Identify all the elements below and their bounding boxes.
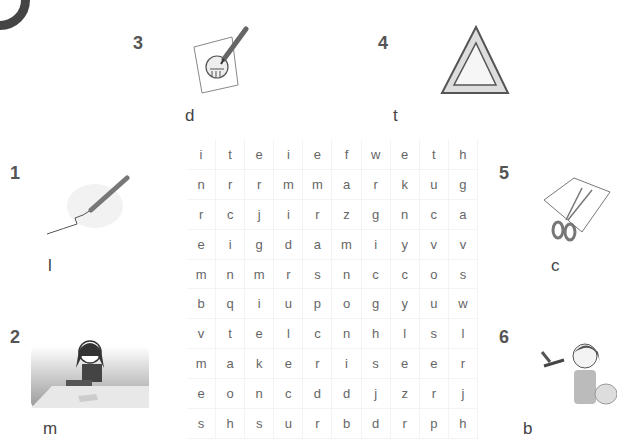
grid-cell[interactable]: l [449,319,478,349]
grid-cell[interactable]: e [187,230,216,260]
grid-cell[interactable]: b [187,289,216,319]
grid-cell[interactable]: r [303,409,332,439]
grid-cell[interactable]: q [216,289,245,319]
grid-cell[interactable]: d [362,409,391,439]
grid-cell[interactable]: u [420,289,449,319]
grid-cell[interactable]: a [449,200,478,230]
grid-cell[interactable]: g [362,200,391,230]
grid-cell[interactable]: g [245,230,274,260]
grid-cell[interactable]: r [303,349,332,379]
grid-cell[interactable]: e [391,140,420,170]
grid-cell[interactable]: m [303,170,332,200]
grid-cell[interactable]: i [187,140,216,170]
grid-cell[interactable]: e [245,319,274,349]
grid-cell[interactable]: e [245,140,274,170]
grid-cell[interactable]: t [420,140,449,170]
grid-cell[interactable]: e [391,349,420,379]
grid-cell[interactable]: v [420,230,449,260]
grid-cell[interactable]: e [274,349,303,379]
grid-cell[interactable]: d [303,379,332,409]
grid-cell[interactable]: h [216,409,245,439]
grid-cell[interactable]: w [362,140,391,170]
grid-cell[interactable]: m [245,260,274,290]
grid-cell[interactable]: h [449,409,478,439]
grid-cell[interactable]: m [332,230,361,260]
grid-cell[interactable]: u [274,409,303,439]
grid-cell[interactable]: r [245,170,274,200]
grid-cell[interactable]: j [449,379,478,409]
grid-cell[interactable]: s [245,409,274,439]
grid-cell[interactable]: c [303,319,332,349]
grid-cell[interactable]: c [391,260,420,290]
grid-cell[interactable]: y [391,289,420,319]
grid-cell[interactable]: o [332,289,361,319]
grid-cell[interactable]: j [362,379,391,409]
grid-cell[interactable]: n [391,200,420,230]
grid-cell[interactable]: v [187,319,216,349]
grid-cell[interactable]: g [449,170,478,200]
grid-cell[interactable]: s [303,260,332,290]
grid-cell[interactable]: s [362,349,391,379]
grid-cell[interactable]: e [187,379,216,409]
grid-cell[interactable]: e [303,140,332,170]
grid-cell[interactable]: f [332,140,361,170]
grid-cell[interactable]: m [187,349,216,379]
grid-cell[interactable]: r [449,349,478,379]
grid-cell[interactable]: k [245,349,274,379]
grid-cell[interactable]: a [332,170,361,200]
grid-cell[interactable]: u [274,289,303,319]
grid-cell[interactable]: o [420,260,449,290]
grid-cell[interactable]: n [216,260,245,290]
grid-cell[interactable]: r [187,200,216,230]
grid-cell[interactable]: i [332,349,361,379]
grid-cell[interactable]: h [449,140,478,170]
grid-cell[interactable]: s [420,319,449,349]
grid-cell[interactable]: i [274,140,303,170]
grid-cell[interactable]: o [216,379,245,409]
grid-cell[interactable]: t [216,140,245,170]
grid-cell[interactable]: n [332,319,361,349]
grid-cell[interactable]: b [332,409,361,439]
grid-cell[interactable]: r [303,200,332,230]
grid-cell[interactable]: s [449,260,478,290]
grid-cell[interactable]: i [245,289,274,319]
grid-cell[interactable]: i [216,230,245,260]
grid-cell[interactable]: h [362,319,391,349]
grid-cell[interactable]: e [420,349,449,379]
grid-cell[interactable]: l [274,319,303,349]
grid-cell[interactable]: r [216,170,245,200]
grid-cell[interactable]: w [449,289,478,319]
grid-cell[interactable]: y [391,230,420,260]
grid-cell[interactable]: k [391,170,420,200]
grid-cell[interactable]: r [362,170,391,200]
grid-cell[interactable]: c [274,379,303,409]
grid-cell[interactable]: n [332,260,361,290]
grid-cell[interactable]: c [420,200,449,230]
grid-cell[interactable]: a [216,349,245,379]
grid-cell[interactable]: m [187,260,216,290]
grid-cell[interactable]: g [362,289,391,319]
grid-cell[interactable]: d [332,379,361,409]
grid-cell[interactable]: j [245,200,274,230]
grid-cell[interactable]: m [274,170,303,200]
grid-cell[interactable]: c [216,200,245,230]
grid-cell[interactable]: z [332,200,361,230]
grid-cell[interactable]: n [187,170,216,200]
grid-cell[interactable]: r [274,260,303,290]
grid-cell[interactable]: t [216,319,245,349]
grid-cell[interactable]: l [391,319,420,349]
grid-cell[interactable]: p [303,289,332,319]
grid-cell[interactable]: s [187,409,216,439]
grid-cell[interactable]: i [274,200,303,230]
grid-cell[interactable]: n [245,379,274,409]
grid-cell[interactable]: p [420,409,449,439]
grid-cell[interactable]: z [391,379,420,409]
grid-cell[interactable]: v [449,230,478,260]
grid-cell[interactable]: a [303,230,332,260]
grid-cell[interactable]: r [420,379,449,409]
grid-cell[interactable]: i [362,230,391,260]
grid-cell[interactable]: r [391,409,420,439]
grid-cell[interactable]: u [420,170,449,200]
grid-cell[interactable]: c [362,260,391,290]
grid-cell[interactable]: d [274,230,303,260]
